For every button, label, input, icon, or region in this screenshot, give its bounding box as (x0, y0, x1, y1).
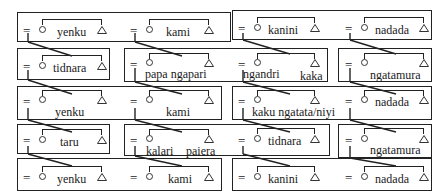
marriage-symbol: = (238, 134, 245, 147)
couple-r2-1: = tidnara (23, 52, 113, 82)
kin-term: ngatamura (370, 69, 421, 81)
kin-term: kanini (268, 173, 298, 185)
female-circle-icon (361, 173, 368, 180)
marriage-symbol: = (23, 60, 30, 73)
kin-term: kaku ngatata/niyi (252, 106, 335, 118)
marriage-symbol: = (130, 95, 137, 108)
marriage-symbol: = (238, 171, 245, 184)
female-circle-icon (254, 96, 261, 103)
couple-r3-1: = yenku (23, 88, 113, 118)
kin-term: tidnara (268, 135, 301, 147)
couple-r5-2: = kami (130, 162, 220, 192)
kin-term: kami (166, 26, 190, 38)
female-circle-icon (146, 173, 153, 180)
marriage-symbol: = (345, 134, 352, 147)
female-circle-icon (361, 135, 368, 142)
couple-r2-3: = ngandri kaka (238, 50, 328, 80)
marriage-symbol: = (345, 58, 352, 71)
kin-term: ngandri (243, 68, 280, 80)
marriage-symbol: = (345, 22, 352, 35)
marriage-symbol: = (130, 171, 137, 184)
couple-r1-2: = kami (130, 16, 220, 46)
couple-r4-2: = kalari paiera (130, 126, 230, 156)
couple-r1-3: = kanini (238, 14, 328, 44)
couple-r4-4: = ngatamura (345, 126, 435, 156)
female-circle-icon (361, 59, 368, 66)
female-circle-icon (254, 135, 261, 142)
couple-r5-4: = nadada (345, 162, 435, 192)
marriage-symbol: = (23, 95, 30, 108)
female-circle-icon (146, 135, 153, 142)
kin-term: nadada (375, 96, 409, 108)
couple-r2-2: = papa ngapari (130, 50, 220, 80)
kin-term: kami (166, 106, 190, 118)
kin-term: yenku (57, 173, 86, 185)
female-circle-icon (361, 24, 368, 31)
sibling-bar (364, 53, 424, 59)
sibling-bar (257, 53, 315, 59)
kin-term: kami (168, 173, 192, 185)
female-circle-icon (39, 96, 46, 103)
sibling-bar (42, 90, 102, 96)
couple-r5-3: = kanini (238, 162, 328, 192)
kin-term: nadada (375, 24, 409, 36)
kin-term: paiera (186, 145, 215, 157)
sibling-bar (149, 129, 209, 135)
couple-r1-1: = yenku (23, 16, 113, 46)
female-circle-icon (39, 26, 46, 33)
female-circle-icon (39, 62, 46, 69)
kin-term: kanini (268, 24, 298, 36)
female-circle-icon (254, 24, 261, 31)
sibling-bar (149, 90, 209, 96)
marriage-symbol: = (23, 134, 30, 147)
couple-r3-4: = nadada (345, 88, 435, 118)
couple-r4-1: = taru (23, 126, 113, 156)
marriage-symbol: = (238, 95, 245, 108)
kin-term: ngatamura (370, 144, 421, 156)
marriage-symbol: = (130, 24, 137, 37)
sibling-bar (364, 128, 424, 134)
female-circle-icon (146, 59, 153, 66)
sibling-bar (149, 53, 209, 59)
marriage-symbol: = (130, 134, 137, 147)
couple-r1-4: = nadada (345, 14, 435, 44)
female-circle-icon (146, 96, 153, 103)
female-circle-icon (146, 26, 153, 33)
couple-r5-1: = yenku (23, 162, 113, 192)
couple-r2-4: = ngatamura (345, 50, 435, 80)
marriage-symbol: = (23, 171, 30, 184)
couple-r3-3: = kaku ngatata/niyi (238, 88, 348, 118)
female-circle-icon (39, 173, 46, 180)
kin-term: kalari (146, 145, 173, 157)
kin-term: tidnara (53, 62, 86, 74)
sibling-bar (257, 90, 315, 96)
kin-term: taru (60, 136, 79, 148)
kin-term: kaka (300, 70, 323, 82)
couple-r4-3: = tidnara (238, 126, 328, 156)
marriage-symbol: = (345, 95, 352, 108)
female-circle-icon (39, 136, 46, 143)
kin-term: yenku (55, 106, 84, 118)
kin-term: yenku (57, 26, 86, 38)
kin-term: nadada (375, 173, 409, 185)
marriage-symbol: = (238, 22, 245, 35)
marriage-symbol: = (130, 58, 137, 71)
female-circle-icon (361, 96, 368, 103)
kin-term: papa ngapari (145, 68, 207, 80)
marriage-symbol: = (23, 24, 30, 37)
female-circle-icon (254, 173, 261, 180)
female-circle-icon (254, 59, 261, 66)
couple-r3-2: = kami (130, 88, 220, 118)
marriage-symbol: = (345, 171, 352, 184)
